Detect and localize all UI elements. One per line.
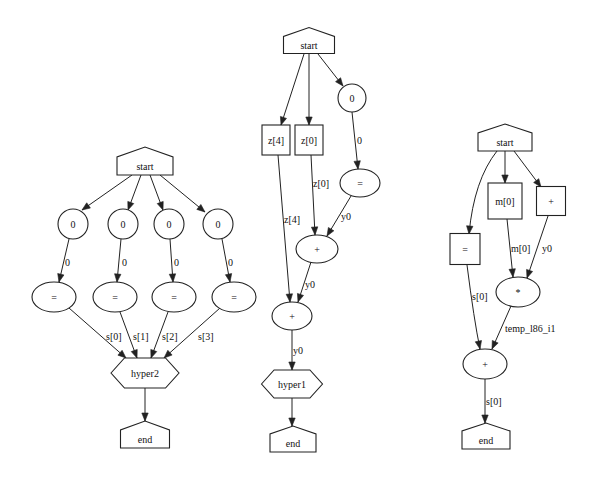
edge: temp_l86_i1	[492, 306, 556, 349]
edge-label: 0	[174, 257, 179, 268]
node-label: end	[286, 438, 300, 449]
edge-label: y0	[293, 345, 303, 356]
node-label: +	[314, 244, 320, 255]
edge	[514, 151, 541, 187]
node-label: m[0]	[495, 196, 514, 207]
node-g1-hyper: hyper2	[111, 358, 179, 388]
node-g3-m0: m[0]	[488, 183, 522, 219]
graph-hyper1: 0z[0]y0z[4]y0y0startz[4]z[0]0=++hyper1en…	[262, 28, 381, 453]
node-g2-end: end	[270, 426, 316, 452]
edge	[82, 175, 132, 210]
edge-label: 0	[122, 257, 127, 268]
graph-hyper2: 0000s[0]s[1]s[2]s[3]start0000====hyper2e…	[32, 147, 256, 448]
edge: z[0]	[311, 155, 329, 235]
node-g3-end: end	[462, 423, 510, 449]
arrow-head-icon	[509, 269, 515, 277]
arrow-head-icon	[467, 226, 473, 234]
arrow-head-icon	[482, 415, 488, 423]
graph-temp: s[0]m[0]y0temp_l86_i1s[0]startm[0]+=*+en…	[450, 124, 566, 449]
edge	[160, 175, 205, 212]
edge-label: y0	[341, 211, 351, 222]
edge-line	[160, 175, 205, 212]
node-label: =	[51, 292, 57, 303]
arrow-head-icon	[475, 341, 481, 349]
node-g1-start: start	[117, 147, 173, 175]
edge: 0	[169, 239, 179, 282]
edge	[306, 54, 312, 125]
arrow-head-icon	[354, 161, 360, 169]
node-g1-c0: 0	[58, 209, 88, 239]
edge: s[0]	[467, 265, 488, 349]
edge-line	[281, 54, 304, 125]
edge: m[0]	[507, 219, 530, 277]
arrow-head-icon	[82, 203, 90, 210]
edge: s[2]	[151, 312, 178, 358]
node-g3-mul: *	[496, 277, 540, 307]
dataflow-diagram-canvas: 0000s[0]s[1]s[2]s[3]start0000====hyper2e…	[0, 0, 593, 495]
node-label: +	[548, 196, 554, 207]
edge-label: s[0]	[486, 396, 502, 407]
arrow-head-icon	[197, 204, 205, 212]
arrow-head-icon	[306, 117, 312, 125]
node-g2-plus2: +	[272, 302, 312, 330]
edge-label: z[4]	[284, 214, 300, 225]
node-g1-e1: =	[93, 282, 137, 312]
node-label: hyper2	[131, 368, 159, 379]
arrow-head-icon	[289, 418, 295, 426]
node-g1-e2: =	[152, 282, 196, 312]
node-label: 0	[216, 219, 221, 230]
node-g1-c1: 0	[108, 209, 138, 239]
edge: y0	[289, 330, 303, 370]
edge: z[4]	[278, 155, 300, 302]
edge-label: s[0]	[106, 331, 122, 342]
edge-label: s[1]	[133, 331, 149, 342]
node-g2-start: start	[284, 28, 335, 54]
edge-label: s[2]	[162, 331, 178, 342]
edge: y0	[327, 196, 351, 236]
edge-label: m[0]	[511, 243, 530, 254]
arrow-head-icon	[297, 293, 303, 302]
node-g2-plus1: +	[296, 235, 338, 263]
node-g1-c2: 0	[154, 209, 184, 239]
edge-label: s[3]	[198, 331, 214, 342]
node-label: end	[138, 434, 152, 445]
node-label: =	[171, 292, 177, 303]
node-label: =	[231, 292, 237, 303]
node-label: +	[482, 359, 488, 370]
edge	[318, 54, 343, 86]
node-g2-c0: 0	[338, 84, 366, 112]
edge: 0	[58, 239, 70, 282]
node-g2-z0: z[0]	[295, 125, 323, 155]
node-g2-hyper: hyper1	[262, 370, 323, 398]
node-label: 0	[71, 219, 76, 230]
node-g2-eq: =	[340, 169, 380, 197]
edge-line	[278, 155, 290, 302]
arrow-head-icon	[169, 274, 175, 282]
edge-label: y0	[305, 279, 315, 290]
node-label: =	[357, 178, 363, 189]
arrow-head-icon	[286, 294, 292, 302]
edge: s[1]	[120, 312, 149, 358]
arrow-head-icon	[492, 340, 498, 349]
arrow-head-icon	[157, 201, 163, 210]
arrow-head-icon	[527, 269, 533, 278]
node-label: start	[300, 40, 317, 51]
node-label: start	[136, 161, 153, 172]
edge	[289, 398, 295, 426]
node-g1-e0: =	[32, 282, 76, 312]
edge	[150, 175, 163, 210]
node-label: end	[479, 435, 493, 446]
edge: y0	[297, 262, 315, 302]
arrow-head-icon	[128, 201, 134, 210]
node-label: z[0]	[301, 135, 317, 146]
node-label: =	[462, 244, 468, 255]
node-g1-c3: 0	[203, 209, 233, 239]
edge: s[0]	[69, 308, 126, 358]
edge-label: y0	[542, 243, 552, 254]
node-label: 0	[121, 219, 126, 230]
arrow-head-icon	[115, 274, 121, 282]
edge-line	[311, 155, 315, 235]
node-label: =	[112, 292, 118, 303]
arrow-head-icon	[311, 227, 317, 235]
edge	[280, 54, 304, 125]
